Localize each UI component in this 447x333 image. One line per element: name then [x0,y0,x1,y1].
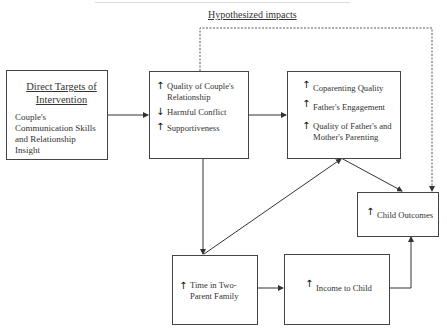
up-arrow-icon: ↑ [302,121,310,131]
box-parenting: ↑ Coparenting Quality ↑ Father's Engagem… [287,71,401,159]
up-arrow-icon: ↑ [302,80,310,90]
connector-parenting-to-child [341,158,402,191]
item-time-two-parent: ↑ Time in Two-Parent Family [177,280,253,302]
direct-targets-heading: Direct Targets of Intervention [15,80,102,106]
item-income-to-child: ↑ Income to Child [303,283,385,294]
box-income-to-child: ↑ Income to Child [284,254,390,325]
up-arrow-icon: ↑ [156,122,164,132]
item-coparenting-quality: ↑ Coparenting Quality [300,83,396,94]
box-direct-targets: Direct Targets of Intervention Couple's … [6,70,108,160]
item-harmful-conflict: ↓ Harmful Conflict [154,107,244,118]
box-two-parent-family: ↑ Time in Two-Parent Family [172,255,258,325]
item-supportiveness: ↑ Supportiveness [154,123,244,134]
box-child-outcomes: ↑ Child Outcomes [357,192,439,237]
item-fathers-engagement: ↑ Father's Engagement [300,102,396,113]
item-quality-couple-relationship: ↑ Quality of Couple's Relationship [154,81,244,103]
item-quality-parenting: ↑ Quality of Father's and Mother's Paren… [300,121,396,143]
up-arrow-icon: ↑ [366,207,374,217]
connector-income-to-child [389,237,411,288]
up-arrow-icon: ↑ [305,279,313,289]
box-couple-relationship: ↑ Quality of Couple's Relationship ↓ Har… [149,71,249,159]
connector-twoparent-to-parenting [204,159,341,254]
up-arrow-icon: ↑ [302,99,310,109]
up-arrow-icon: ↑ [156,81,164,91]
up-arrow-icon: ↑ [179,281,187,291]
down-arrow-icon: ↓ [156,107,164,117]
direct-targets-text: Couple's Communication Skills and Relati… [15,112,102,156]
item-child-outcomes: ↑ Child Outcomes [364,210,434,221]
